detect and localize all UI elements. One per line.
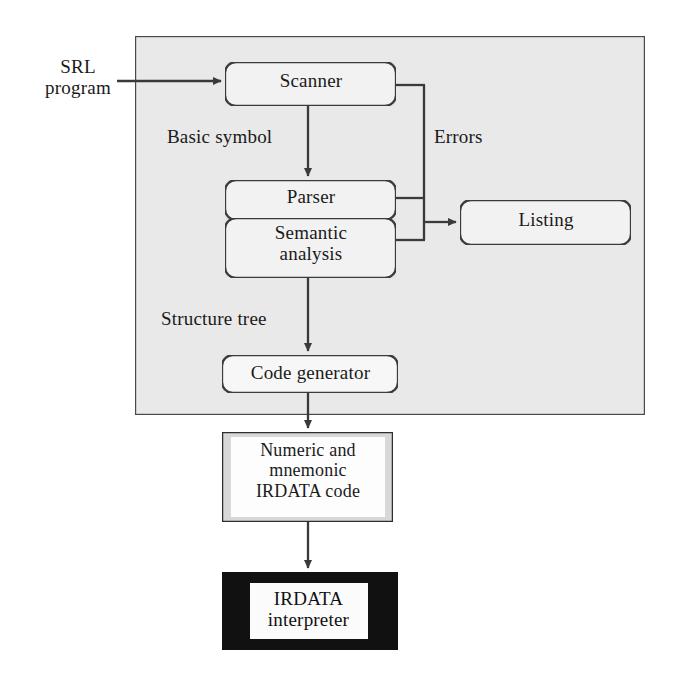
edge-label-srl-program: SRL program [22,56,134,99]
irdata-code-text-plate [231,437,385,517]
diagram-canvas: Scanner Parser Semantic analysis Listing… [0,0,684,686]
node-scanner [225,62,396,106]
edge-label-errors: Errors [434,126,483,147]
edge-label-basic-symbol: Basic symbol [167,126,272,147]
node-parser [225,180,396,220]
irdata-interpreter-text-plate [250,583,368,639]
node-listing [460,200,631,245]
node-code-generator [222,355,398,393]
node-semantic-analysis [225,218,396,278]
edge-label-structure-tree: Structure tree [161,308,267,329]
